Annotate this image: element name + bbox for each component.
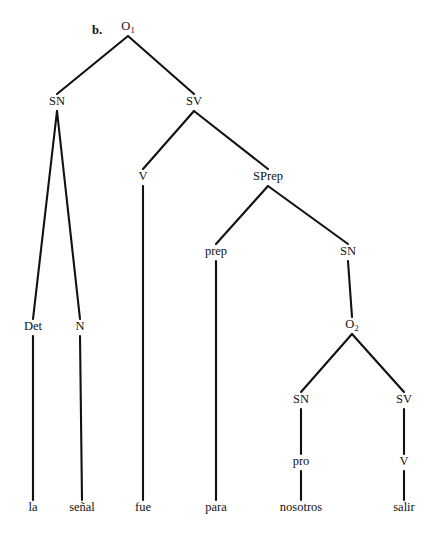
tree-node-label: pro (293, 454, 310, 468)
tree-edge (128, 36, 194, 94)
tree-edge (348, 261, 352, 317)
tree-node-label: SN (49, 94, 65, 108)
tree-node-label: SV (186, 94, 202, 108)
tree-node-label: O1 (121, 19, 134, 35)
tree-node-label: SN (293, 392, 309, 406)
syntax-tree-canvas: O1SNSVDetNVSPrepprepSNO2SNSVproVlaseñalf… (0, 0, 438, 540)
tree-edge (194, 111, 268, 169)
tree-node-label: V (399, 454, 408, 468)
tree-edge (216, 186, 268, 244)
tree-edge (268, 186, 348, 244)
tree-node-label: SV (396, 392, 412, 406)
tree-edge (57, 111, 80, 319)
terminal-word: salir (393, 500, 415, 514)
annotation-group: b. (92, 23, 102, 37)
tree-edge (57, 36, 128, 94)
tree-edges-group (33, 36, 404, 500)
tree-node-label: SPrep (253, 169, 283, 183)
tree-node-label: N (75, 319, 84, 333)
terminal-word: para (205, 500, 227, 514)
terminal-word: la (28, 500, 37, 514)
tree-node-label: V (138, 169, 147, 183)
tree-edge (33, 111, 57, 319)
example-label: b. (92, 23, 102, 37)
tree-node-label: O2 (345, 317, 358, 333)
tree-node-label: prep (205, 244, 227, 258)
terminal-word: nosotros (280, 500, 323, 514)
tree-edge (143, 111, 194, 169)
tree-edge (80, 336, 82, 500)
tree-diagram-page: O1SNSVDetNVSPrepprepSNO2SNSVproVlaseñalf… (0, 0, 438, 540)
tree-node-label: SN (340, 244, 356, 258)
tree-edge (352, 334, 404, 392)
tree-node-label: Det (24, 319, 43, 333)
terminal-word: fue (135, 500, 151, 514)
tree-nodes-group: O1SNSVDetNVSPrepprepSNO2SNSVproVlaseñalf… (24, 19, 416, 514)
terminal-word: señal (69, 500, 95, 514)
tree-edge (301, 334, 352, 392)
